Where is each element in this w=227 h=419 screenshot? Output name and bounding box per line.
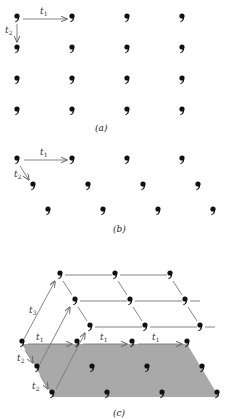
t1-label-2: t1 — [100, 332, 107, 343]
upper-lattice-lines — [63, 275, 215, 327]
caption-b: (b) — [113, 224, 126, 234]
motif-grid-a — [14, 13, 184, 115]
caption-c: (c) — [113, 408, 126, 418]
panel-c: t3 t1 t1 t1 t2 t2 (c) — [17, 270, 220, 418]
t1-label: t1 — [36, 332, 43, 343]
t2-label-2: t2 — [32, 381, 40, 392]
motif-grid-b — [14, 155, 215, 215]
t1-label: t1 — [40, 147, 47, 158]
lattice-figure: t1 t2 (a) t1 t2 (b) — [0, 0, 227, 419]
t2-label: t2 — [17, 353, 25, 364]
caption-a: (a) — [95, 123, 108, 133]
t1-label-3: t1 — [152, 332, 159, 343]
t1-label: t1 — [40, 6, 47, 17]
panel-b: t1 t2 (b) — [14, 147, 216, 234]
shaded-base-plane — [22, 344, 219, 397]
t3-label: t3 — [29, 305, 37, 316]
t2-label: t2 — [14, 169, 22, 180]
t2-label: t2 — [5, 25, 13, 36]
panel-a: t1 t2 (a) — [5, 6, 185, 133]
